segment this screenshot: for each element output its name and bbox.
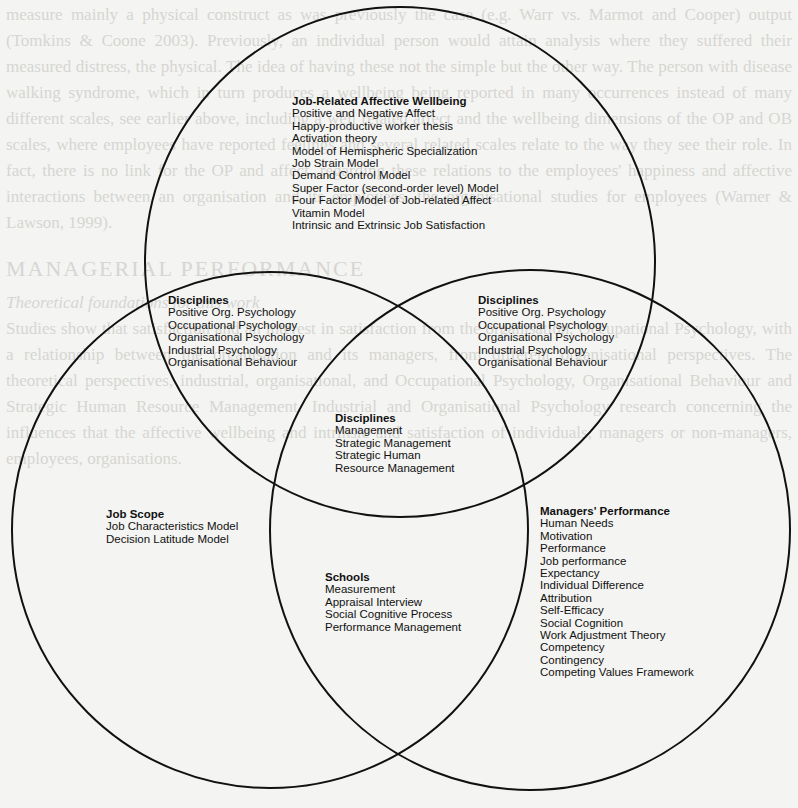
list-item: Decision Latitude Model	[106, 533, 238, 545]
list-item: Performance Management	[325, 621, 461, 633]
list-item: Human Needs	[540, 517, 694, 529]
list-item: Occupational Psychology	[168, 319, 304, 331]
list-item: Four Factor Model of Job-related Affect	[292, 194, 498, 206]
list-item: Social Cognitive Process	[325, 608, 461, 620]
list-item: Organisational Psychology	[168, 331, 304, 343]
list-item: Super Factor (second-order level) Model	[292, 182, 498, 194]
list-item: Strategic Human	[335, 449, 455, 461]
list-item: Performance	[540, 542, 694, 554]
region-disciplines-center: Disciplines Management Strategic Managem…	[335, 412, 455, 474]
list-item: Measurement	[325, 583, 461, 595]
list-item: Occupational Psychology	[478, 319, 614, 331]
list-item: Activation theory	[292, 132, 498, 144]
list-item: Motivation	[540, 530, 694, 542]
list-item: Industrial Psychology	[168, 344, 304, 356]
list-item: Attribution	[540, 592, 694, 604]
list-item: Job Characteristics Model	[106, 520, 238, 532]
list-item: Model of Hemispheric Specialization	[292, 145, 498, 157]
list-item: Expectancy	[540, 567, 694, 579]
region-job-scope: Job Scope Job Characteristics Model Deci…	[106, 508, 238, 545]
list-item: Positive and Negative Affect	[292, 107, 498, 119]
list-item: Positive Org. Psychology	[168, 306, 304, 318]
list-item: Organisational Behaviour	[478, 356, 614, 368]
list-item: Positive Org. Psychology	[478, 306, 614, 318]
list-item: Industrial Psychology	[478, 344, 614, 356]
region-title: Disciplines	[335, 412, 455, 424]
list-item: Social Cognition	[540, 617, 694, 629]
list-item: Organisational Behaviour	[168, 356, 304, 368]
region-title: Schools	[325, 571, 461, 583]
list-item: Competing Values Framework	[540, 666, 694, 678]
region-title: Job-Related Affective Wellbeing	[292, 95, 498, 107]
region-title: Disciplines	[478, 294, 614, 306]
list-item: Appraisal Interview	[325, 596, 461, 608]
region-disciplines-left: Disciplines Positive Org. Psychology Occ…	[168, 294, 304, 368]
region-title: Managers' Performance	[540, 505, 694, 517]
list-item: Intrinsic and Extrinsic Job Satisfaction	[292, 219, 498, 231]
region-schools: Schools Measurement Appraisal Interview …	[325, 571, 461, 633]
list-item: Contingency	[540, 654, 694, 666]
list-item: Job Strain Model	[292, 157, 498, 169]
list-item: Strategic Management	[335, 437, 455, 449]
list-item: Job performance	[540, 555, 694, 567]
list-item: Management	[335, 424, 455, 436]
list-item: Happy-productive worker thesis	[292, 120, 498, 132]
list-item: Work Adjustment Theory	[540, 629, 694, 641]
list-item: Self-Efficacy	[540, 604, 694, 616]
region-title: Job Scope	[106, 508, 238, 520]
region-job-related-affective-wellbeing: Job-Related Affective Wellbeing Positive…	[292, 95, 498, 231]
region-disciplines-right: Disciplines Positive Org. Psychology Occ…	[478, 294, 614, 368]
list-item: Vitamin Model	[292, 207, 498, 219]
region-managers-performance: Managers' Performance Human Needs Motiva…	[540, 505, 694, 679]
list-item: Demand Control Model	[292, 169, 498, 181]
list-item: Individual Difference	[540, 579, 694, 591]
list-item: Organisational Psychology	[478, 331, 614, 343]
list-item: Resource Management	[335, 462, 455, 474]
region-title: Disciplines	[168, 294, 304, 306]
list-item: Competency	[540, 641, 694, 653]
